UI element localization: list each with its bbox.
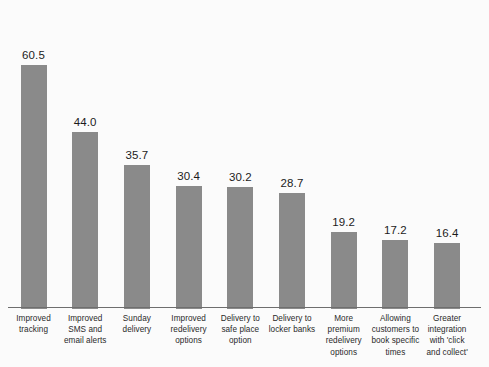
bar-value-label: 30.2: [229, 171, 252, 183]
bar[interactable]: [176, 186, 202, 309]
bar[interactable]: [227, 187, 253, 309]
category-label-line: SMS and: [59, 324, 111, 335]
category-label-line: and collect': [421, 347, 473, 358]
category-label-line: tracking: [8, 324, 60, 335]
category-label-line: redelivery: [318, 335, 370, 346]
bar-group[interactable]: 35.7: [111, 0, 163, 309]
category-label-line: Improved: [59, 313, 111, 324]
bar[interactable]: [434, 243, 460, 309]
bar-chart: 60.544.035.730.430.228.719.217.216.4 Imp…: [0, 0, 489, 367]
category-label-line: Sunday: [111, 313, 163, 324]
category-label: Delivery tolocker banks: [266, 313, 318, 335]
category-labels-row: ImprovedtrackingImprovedSMS andemail ale…: [0, 313, 489, 367]
bar-value-label: 44.0: [74, 116, 97, 128]
bar-value-label: 19.2: [332, 216, 355, 228]
bar-value-label: 30.4: [177, 170, 200, 182]
category-label: Sundaydelivery: [111, 313, 163, 335]
category-label-line: Delivery to: [266, 313, 318, 324]
category-label-line: integration: [421, 324, 473, 335]
category-label-line: book specific: [369, 335, 421, 346]
category-label-line: with 'click: [421, 335, 473, 346]
bar-value-label: 16.4: [436, 227, 459, 239]
category-label-line: locker banks: [266, 324, 318, 335]
category-label-line: Allowing: [369, 313, 421, 324]
category-label-line: email alerts: [59, 335, 111, 346]
category-label-line: customers to: [369, 324, 421, 335]
category-label-line: Greater: [421, 313, 473, 324]
bar[interactable]: [124, 165, 150, 309]
category-label-line: options: [163, 335, 215, 346]
category-label-line: Improved: [163, 313, 215, 324]
category-label-line: Improved: [8, 313, 60, 324]
bar-value-label: 35.7: [125, 149, 148, 161]
x-axis-baseline: [8, 307, 481, 308]
category-label: Improvedredeliveryoptions: [163, 313, 215, 347]
category-label-line: option: [214, 335, 266, 346]
category-label-line: More: [318, 313, 370, 324]
category-label: Delivery tosafe placeoption: [214, 313, 266, 347]
bar-value-label: 17.2: [384, 224, 407, 236]
bar[interactable]: [279, 193, 305, 309]
category-label-line: redelivery: [163, 324, 215, 335]
bar[interactable]: [21, 65, 47, 309]
category-label: ImprovedSMS andemail alerts: [59, 313, 111, 347]
bar-value-label: 28.7: [281, 177, 304, 189]
bar-group[interactable]: 17.2: [369, 0, 421, 309]
category-label-line: delivery: [111, 324, 163, 335]
bar-group[interactable]: 16.4: [421, 0, 473, 309]
category-label: Morepremiumredeliveryoptions: [318, 313, 370, 358]
bar-group[interactable]: 30.4: [163, 0, 215, 309]
category-label-line: times: [369, 347, 421, 358]
bar-value-label: 60.5: [22, 49, 45, 61]
bar[interactable]: [72, 132, 98, 309]
bar-group[interactable]: 44.0: [59, 0, 111, 309]
bar-group[interactable]: 19.2: [318, 0, 370, 309]
category-label: Allowingcustomers tobook specifictimes: [369, 313, 421, 358]
bar-group[interactable]: 60.5: [8, 0, 60, 309]
category-label-line: premium: [318, 324, 370, 335]
category-label-line: options: [318, 347, 370, 358]
category-label-line: Delivery to: [214, 313, 266, 324]
category-label: Improvedtracking: [8, 313, 60, 335]
plot-area: 60.544.035.730.430.228.719.217.216.4: [0, 0, 489, 309]
bar-group[interactable]: 30.2: [214, 0, 266, 309]
bar-group[interactable]: 28.7: [266, 0, 318, 309]
category-label: Greaterintegrationwith 'clickand collect…: [421, 313, 473, 358]
category-label-line: safe place: [214, 324, 266, 335]
bar[interactable]: [382, 240, 408, 309]
bar[interactable]: [331, 232, 357, 309]
